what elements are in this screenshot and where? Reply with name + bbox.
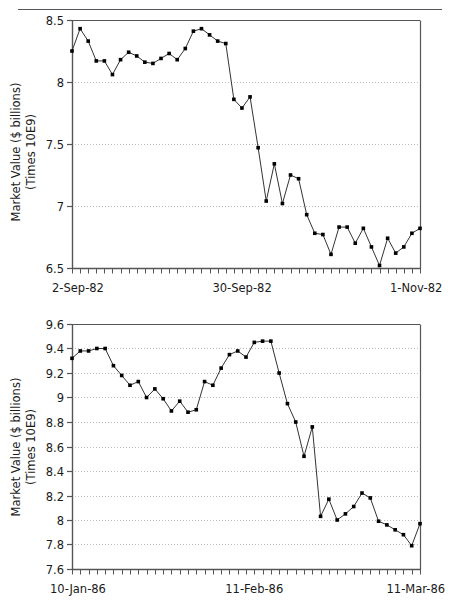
data-point: [136, 380, 140, 384]
data-point: [78, 349, 82, 353]
data-point: [224, 42, 228, 46]
data-point: [305, 213, 309, 217]
x-tick-label: 11-Mar-86: [387, 582, 446, 596]
data-point: [248, 95, 252, 99]
data-point: [219, 366, 223, 370]
data-point: [385, 523, 389, 527]
data-point: [269, 339, 273, 343]
y-tick-label: 8.4: [46, 465, 64, 479]
plot-area-bottom: 7.67.888.28.48.68.899.29.49.610-Jan-8611…: [32, 320, 420, 605]
data-point: [86, 39, 90, 43]
data-point: [175, 58, 179, 62]
data-point: [186, 410, 190, 414]
header-rule: [18, 9, 442, 10]
data-point: [143, 60, 147, 64]
data-point: [103, 347, 107, 351]
data-point: [151, 62, 155, 66]
data-point: [261, 339, 265, 343]
y-gridlines: 7.67.888.28.48.68.899.29.49.6: [46, 320, 420, 577]
data-point: [240, 106, 244, 110]
data-point: [370, 245, 374, 249]
data-point: [184, 47, 188, 51]
data-point: [200, 27, 204, 31]
y-tick-label: 8: [57, 514, 64, 528]
data-point: [321, 233, 325, 237]
data-markers: [70, 339, 422, 547]
data-point: [377, 519, 381, 523]
y-tick-label: 9.4: [46, 342, 64, 356]
y-tick-label: 8.6: [46, 441, 64, 455]
data-point: [394, 251, 398, 255]
y-tick-label: 9.2: [46, 367, 64, 381]
x-ticks: [73, 269, 421, 274]
data-point: [378, 264, 382, 268]
data-point: [159, 57, 163, 61]
data-point: [203, 380, 207, 384]
y-tick-label: 6.5: [46, 262, 64, 276]
data-point: [170, 409, 174, 413]
y-tick-label: 8: [57, 76, 64, 90]
y-tick-label: 8.5: [46, 16, 64, 28]
data-point: [95, 347, 99, 351]
data-point: [362, 227, 366, 231]
data-point: [360, 491, 364, 495]
data-point: [70, 357, 74, 361]
data-point: [277, 371, 281, 375]
data-point: [327, 497, 331, 501]
x-tick-label: 11-Feb-86: [225, 582, 283, 596]
data-point: [344, 512, 348, 516]
y-tick-label: 7.5: [46, 138, 64, 152]
x-tick-label: 2-Sep-82: [52, 281, 104, 295]
data-point: [310, 425, 314, 429]
data-point: [418, 227, 422, 231]
data-point: [402, 245, 406, 249]
data-point: [345, 225, 349, 229]
data-point: [127, 50, 131, 54]
chart-svg: 7.67.888.28.48.68.899.29.49.6: [32, 320, 430, 603]
data-point: [289, 173, 293, 177]
data-point: [244, 355, 248, 359]
data-point: [281, 202, 285, 206]
figure-top: Market Value ($ billions) (Times 10E9) 6…: [0, 12, 456, 302]
y-axis-label-line1: Market Value ($ billions): [9, 297, 24, 597]
y-tick-label: 8.8: [46, 416, 64, 430]
data-line: [72, 29, 420, 266]
plot-area-top: 6.577.588.52-Sep-8230-Sep-821-Nov-82: [32, 16, 420, 304]
data-point: [337, 225, 341, 229]
data-point: [418, 522, 422, 526]
data-point: [128, 383, 132, 387]
y-tick-label: 7.8: [46, 538, 64, 552]
data-point: [319, 515, 323, 519]
data-markers: [70, 27, 422, 267]
data-point: [119, 58, 123, 62]
data-point: [410, 544, 414, 548]
x-tick-label: 10-Jan-86: [50, 582, 106, 596]
data-point: [297, 177, 301, 181]
data-point: [145, 396, 149, 400]
data-point: [87, 349, 91, 353]
data-point: [302, 455, 306, 459]
data-point: [252, 341, 256, 345]
data-line: [72, 341, 420, 546]
data-point: [192, 29, 196, 33]
data-point: [216, 39, 220, 43]
y-tick-label: 9.6: [46, 320, 64, 332]
data-point: [386, 236, 390, 240]
data-point: [410, 231, 414, 235]
data-point: [70, 49, 74, 53]
y-tick-label: 7.6: [46, 563, 64, 577]
data-point: [352, 505, 356, 509]
data-point: [232, 98, 236, 102]
data-point: [111, 73, 115, 77]
data-point: [103, 59, 107, 63]
y-tick-label: 9: [57, 391, 64, 405]
data-point: [94, 59, 98, 63]
data-point: [167, 52, 171, 56]
data-point: [329, 253, 333, 257]
data-point: [178, 399, 182, 403]
data-point: [353, 241, 357, 245]
data-point: [194, 408, 198, 412]
data-point: [273, 162, 277, 166]
data-point: [228, 353, 232, 357]
page-root: Market Value ($ billions) (Times 10E9) 6…: [0, 0, 456, 612]
